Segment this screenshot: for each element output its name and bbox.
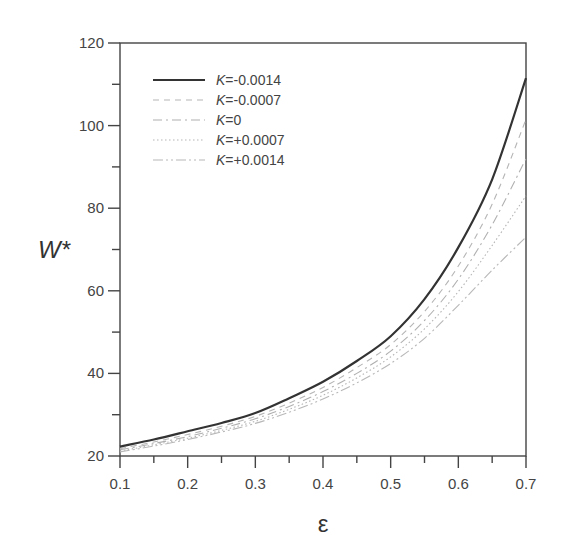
legend-item: K=0: [153, 112, 242, 128]
legend-label: K=+0.0014: [216, 152, 285, 168]
line-chart: 0.10.20.30.40.50.60.7 20406080100120 ε W…: [0, 0, 565, 549]
y-tick-label: 20: [87, 447, 104, 464]
plot-border: [120, 43, 526, 456]
y-tick-label: 120: [79, 34, 104, 51]
legend-item: K=+0.0007: [153, 132, 285, 148]
legend-item: K=-0.0014: [153, 72, 281, 88]
x-tick-label: 0.3: [245, 475, 266, 492]
plot-frame: [120, 43, 526, 456]
series-layer: [120, 78, 526, 452]
x-tick-label: 0.6: [448, 475, 469, 492]
legend-label: K=+0.0007: [216, 132, 285, 148]
x-tick-label: 0.2: [177, 475, 198, 492]
y-tick-label: 80: [87, 199, 104, 216]
legend-item: K=-0.0007: [153, 92, 281, 108]
y-axis: 20406080100120: [79, 34, 120, 464]
legend-label: K=-0.0014: [216, 72, 281, 88]
legend-label: K=0: [216, 112, 242, 128]
x-axis-title: ε: [318, 510, 329, 537]
series-line-k-0: [120, 159, 526, 450]
x-tick-label: 0.4: [313, 475, 334, 492]
x-axis: 0.10.20.30.40.50.60.7: [110, 456, 537, 492]
y-tick-label: 40: [87, 364, 104, 381]
y-tick-label: 60: [87, 282, 104, 299]
legend: K=-0.0014K=-0.0007K=0K=+0.0007K=+0.0014: [153, 72, 285, 168]
x-tick-label: 0.1: [110, 475, 131, 492]
y-tick-label: 100: [79, 117, 104, 134]
x-tick-label: 0.5: [380, 475, 401, 492]
x-tick-label: 0.7: [516, 475, 537, 492]
legend-item: K=+0.0014: [153, 152, 285, 168]
y-axis-title: W*: [38, 236, 71, 263]
legend-label: K=-0.0007: [216, 92, 281, 108]
